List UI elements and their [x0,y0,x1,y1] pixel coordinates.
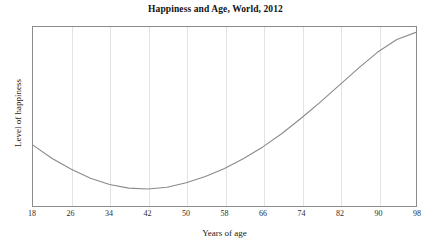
x-tick-label-42: 42 [144,209,152,218]
x-axis-label: Years of age [32,228,417,238]
chart-title: Happiness and Age, World, 2012 [0,4,431,14]
plot-area [32,26,417,207]
y-axis-label: Level of happiness [13,33,23,193]
happiness-curve [33,27,416,206]
x-axis-tick-labels: 1826344250586674829098 [0,209,431,223]
x-tick-label-58: 58 [221,209,229,218]
chart-figure: Happiness and Age, World, 2012 182634425… [0,0,431,252]
x-tick-label-82: 82 [336,209,344,218]
x-tick-label-50: 50 [182,209,190,218]
x-tick-label-90: 90 [375,209,383,218]
x-tick-label-98: 98 [413,209,421,218]
x-tick-label-66: 66 [259,209,267,218]
x-tick-label-74: 74 [298,209,306,218]
x-tick-label-18: 18 [28,209,36,218]
x-tick-label-26: 26 [67,209,75,218]
x-tick-label-34: 34 [105,209,113,218]
